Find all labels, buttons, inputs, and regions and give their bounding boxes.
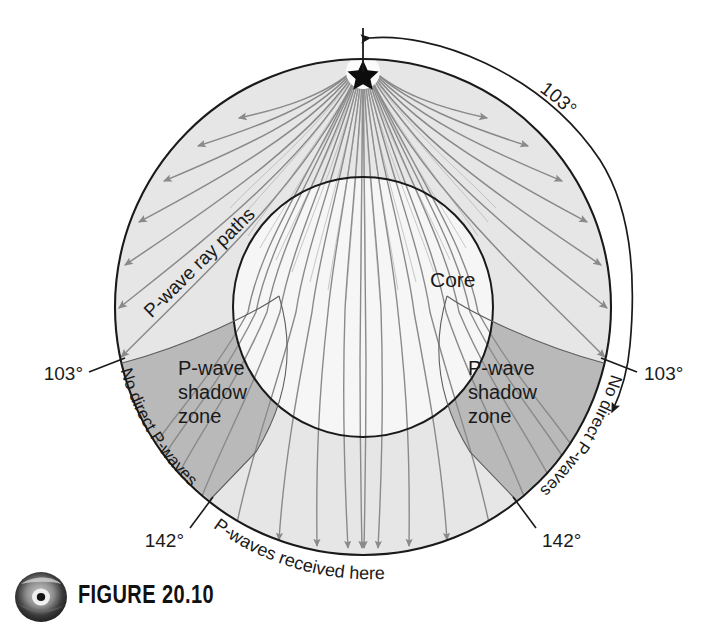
shadow-zone-left-line3: zone	[178, 405, 221, 427]
angle-label-103-left: 103°	[44, 363, 83, 384]
shadow-zone-left-line2: shadow	[178, 381, 247, 403]
figure-caption-bar: FIGURE 20.10	[0, 566, 720, 628]
shadow-zone-left-line1: P-wave	[178, 357, 245, 379]
cd-disc-icon	[12, 570, 70, 624]
figure-container: Core P-wave ray paths P-wave shadow zone…	[0, 0, 720, 628]
shadow-zone-right-line1: P-wave	[468, 357, 535, 379]
core-label: Core	[430, 268, 476, 291]
angle-label-142-left: 142°	[145, 530, 184, 551]
figure-number-label: FIGURE 20.10	[78, 580, 214, 609]
angle-label-142-right: 142°	[542, 530, 581, 551]
angle-label-103-right: 103°	[644, 363, 683, 384]
shadow-zone-right-line3: zone	[468, 405, 511, 427]
shadow-zone-right-line2: shadow	[468, 381, 537, 403]
seismic-shadow-zone-diagram: Core P-wave ray paths P-wave shadow zone…	[0, 0, 720, 628]
